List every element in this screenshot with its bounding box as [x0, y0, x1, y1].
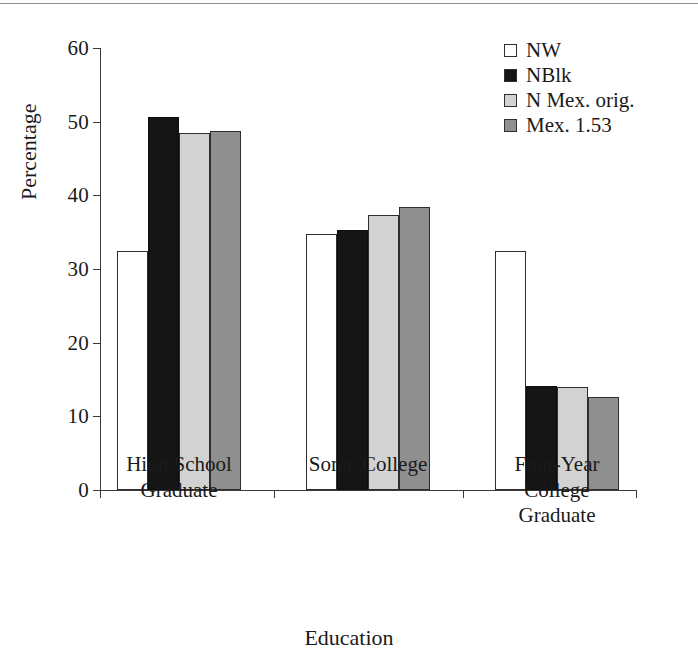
legend-item-1: NW — [504, 38, 635, 63]
y-axis-title: Percentage — [16, 60, 42, 200]
legend-label: N Mex. orig. — [526, 88, 635, 113]
legend-item-4: Mex. 1.53 — [504, 113, 635, 138]
legend-swatch-icon — [504, 69, 517, 82]
x-group-label-3: Four-Year College Graduate — [447, 452, 667, 529]
bar-mex-1-53-group-2 — [399, 207, 430, 490]
y-tick-mark — [93, 269, 100, 270]
legend-item-3: N Mex. orig. — [504, 88, 635, 113]
legend-label: Mex. 1.53 — [526, 113, 612, 138]
bar-mex-1-53-group-1 — [210, 131, 241, 490]
y-tick-label: 30 — [68, 257, 89, 282]
legend-item-2: NBlk — [504, 63, 635, 88]
y-tick-mark — [93, 122, 100, 123]
y-tick-label: 40 — [68, 183, 89, 208]
y-tick-mark — [93, 343, 100, 344]
x-group-label-2: Some College — [258, 452, 478, 478]
bar-nblk-group-1 — [148, 117, 179, 490]
y-tick-label: 10 — [68, 404, 89, 429]
y-tick-label: 50 — [68, 109, 89, 134]
x-axis-title: Education — [0, 625, 698, 651]
legend-label: NW — [526, 38, 561, 63]
legend-swatch-icon — [504, 94, 517, 107]
chart-legend: NWNBlkN Mex. orig.Mex. 1.53 — [504, 38, 635, 138]
legend-swatch-icon — [504, 119, 517, 132]
y-axis-line — [100, 48, 101, 491]
y-tick-mark — [93, 48, 100, 49]
bar-chart-figure: Percentage 0102030405060 High School Gra… — [0, 0, 698, 664]
legend-label: NBlk — [526, 63, 572, 88]
y-tick-label: 20 — [68, 330, 89, 355]
bar-n-mex-orig-group-2 — [368, 215, 399, 491]
bar-n-mex-orig-group-1 — [179, 133, 210, 490]
bar-nblk-group-2 — [337, 230, 368, 490]
y-tick-label: 60 — [68, 36, 89, 61]
legend-swatch-icon — [504, 44, 517, 57]
y-tick-mark — [93, 416, 100, 417]
y-tick-mark — [93, 195, 100, 196]
x-group-label-1: High School Graduate — [69, 452, 289, 503]
